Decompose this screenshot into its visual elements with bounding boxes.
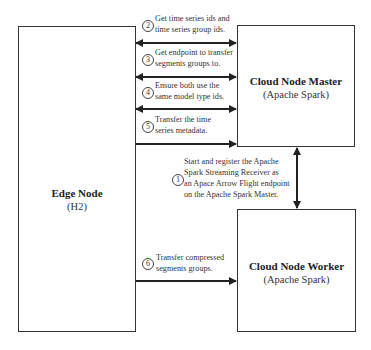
cloud-master-box: Cloud Node Master (Apache Spark) [237,25,355,147]
cloud-master-subtitle: (Apache Spark) [238,89,354,100]
cloud-worker-title: Cloud Node Worker [238,260,355,272]
step-2-line-2: time series group ids. [155,24,230,35]
step-3-badge: 3 [142,54,154,66]
step-5-badge: 5 [142,121,154,133]
step-3-label: Get endpoint to transfer segments groups… [155,47,233,69]
edge-node-title: Edge Node [19,187,135,199]
step-4-line-2: same model type ids. [155,91,224,102]
edge-node-box: Edge Node (H2) [18,26,136,332]
cloud-master-title: Cloud Node Master [238,75,354,87]
step-6-line-2: segments groups. [156,263,224,274]
step-2-label: Get time series ids and time series grou… [155,13,230,35]
step-3-line-1: Get endpoint to transfer [155,47,233,58]
step-1-line-3: an Apace Arrow Flight endpoint [184,178,290,189]
step-4-label: Ensure both use the same model type ids. [155,80,224,102]
cloud-worker-box: Cloud Node Worker (Apache Spark) [237,209,356,332]
step-2-badge: 2 [142,20,154,32]
step-1-line-2: Spark Streaming Receiver as [184,167,290,178]
step-3-line-2: segments groups to. [155,58,233,69]
step-6-line-1: Transfer compressed [156,252,224,263]
step-6-badge: 6 [142,258,154,270]
step-1-badge: 1 [172,174,184,186]
step-6-label: Transfer compressed segments groups. [156,252,224,274]
step-4-badge: 4 [142,87,154,99]
step-1-line-4: on the Apache Spark Master. [184,189,290,200]
cloud-worker-subtitle: (Apache Spark) [238,274,355,285]
step-5-line-2: series metadata. [155,125,211,136]
step-2-line-1: Get time series ids and [155,13,230,24]
step-1-label: Start and register the Apache Spark Stre… [184,156,290,200]
step-5-label: Transfer the time series metadata. [155,114,211,136]
step-4-line-1: Ensure both use the [155,80,224,91]
step-1-line-1: Start and register the Apache [184,156,290,167]
edge-node-subtitle: (H2) [19,201,135,212]
step-5-line-1: Transfer the time [155,114,211,125]
